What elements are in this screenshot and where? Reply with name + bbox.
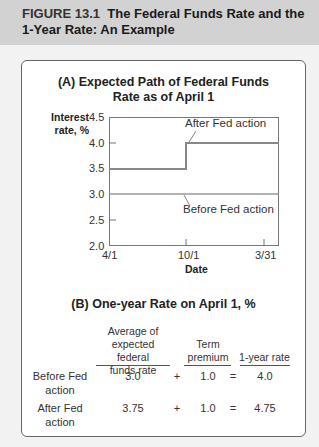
header-1-year-rate: 1-year rate xyxy=(238,351,291,364)
header-term-line1: Term xyxy=(196,338,219,350)
cell-rate: 4.75 xyxy=(245,401,285,415)
header-avg-line1: Average of xyxy=(108,325,159,337)
row-label-before: Before Fed action xyxy=(30,369,90,397)
x-tick-label: 10/1 xyxy=(178,249,199,261)
header-term-premium: Term premium xyxy=(184,338,232,364)
y-tick-label: 4.0 xyxy=(89,137,104,149)
y-tick-label: 2.5 xyxy=(89,214,104,226)
cell-avg: 3.0 xyxy=(113,369,153,383)
header-underline xyxy=(184,365,231,366)
cell-avg: 3.75 xyxy=(113,401,153,415)
after-fed-action-label: After Fed action xyxy=(185,117,266,129)
y-axis-title: Interest rate, % xyxy=(44,111,89,137)
x-tick-label: 3/31 xyxy=(255,249,276,261)
figure-number: FIGURE 13.1 xyxy=(22,6,100,21)
x-axis-title: Date xyxy=(185,263,208,276)
panel-a-title-line2: Rate as of April 1 xyxy=(113,90,215,104)
y-tick-label: 3.5 xyxy=(89,162,104,174)
after-leader-line xyxy=(189,131,196,142)
cell-plus: + xyxy=(172,369,182,383)
after-fed-action-line xyxy=(109,143,279,169)
figure-title: FIGURE 13.1 The Federal Funds Rate and t… xyxy=(22,6,312,38)
before-fed-action-label: Before Fed action xyxy=(183,203,274,215)
cell-plus: + xyxy=(172,401,182,415)
figure-title-line1: The Federal Funds Rate and the xyxy=(107,6,304,21)
panel-b-title: (B) One-year Rate on April 1, % xyxy=(21,297,306,312)
cell-term: 1.0 xyxy=(191,369,225,383)
header-avg-line2: expected federal xyxy=(112,338,155,363)
header-term-line2: premium xyxy=(188,351,229,363)
cell-equals: = xyxy=(228,369,238,383)
cell-equals: = xyxy=(228,401,238,415)
panel-a-title-line1: (A) Expected Path of Federal Funds xyxy=(58,75,269,89)
panel-a-title: (A) Expected Path of Federal Funds Rate … xyxy=(21,75,306,105)
header-underline xyxy=(240,365,290,366)
y-tick-label: 4.5 xyxy=(89,111,104,123)
y-axis-title-line2: rate, % xyxy=(55,124,89,136)
row-label-line1: After Fed xyxy=(37,402,82,414)
header-underline xyxy=(96,365,170,366)
cell-rate: 4.0 xyxy=(245,369,285,383)
x-tick-label: 4/1 xyxy=(102,249,117,261)
row-label-line2: action xyxy=(45,416,74,428)
row-label-line1: Before Fed xyxy=(33,370,87,382)
y-tick-label: 3.0 xyxy=(89,188,104,200)
y-axis-title-line1: Interest xyxy=(51,111,89,123)
cell-term: 1.0 xyxy=(191,401,225,415)
row-label-after: After Fed action xyxy=(30,401,90,429)
figure-title-line2: 1-Year Rate: An Example xyxy=(22,22,175,37)
panel-a-plot xyxy=(105,112,285,252)
row-label-line2: action xyxy=(45,384,74,396)
